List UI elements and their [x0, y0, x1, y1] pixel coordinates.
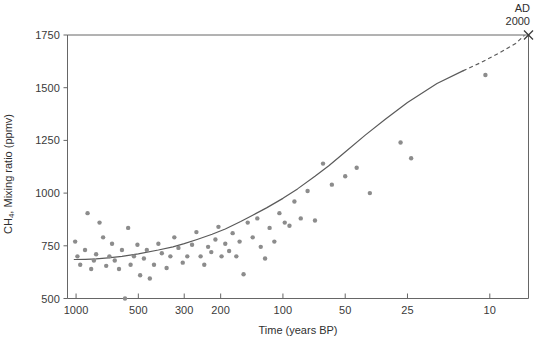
data-point [216, 225, 220, 229]
data-point [78, 263, 82, 267]
data-point [126, 226, 130, 230]
data-point [104, 264, 108, 268]
data-point [483, 73, 487, 77]
x-tick-label: 50 [339, 304, 351, 316]
data-point [73, 239, 77, 243]
y-tick-label: 1250 [26, 134, 60, 146]
data-point [198, 254, 202, 258]
data-point [251, 235, 255, 239]
data-point [152, 263, 156, 267]
chart-canvas [0, 0, 549, 348]
data-point [110, 241, 114, 245]
y-tick-label: 750 [26, 240, 60, 252]
data-point [219, 254, 223, 258]
y-tick-label: 1500 [26, 82, 60, 94]
x-tick-label: 100 [274, 304, 293, 316]
data-point [168, 254, 172, 258]
data-point [398, 140, 402, 144]
y-axis-title: CH4, Mixing ratio (ppmv) [2, 114, 14, 234]
data-point [299, 216, 303, 220]
data-point [292, 199, 296, 203]
trend-line [74, 35, 524, 259]
data-point [120, 248, 124, 252]
y-axis-title-suffix: , Mixing ratio (ppmv) [2, 114, 14, 214]
data-point [227, 249, 231, 253]
data-point [101, 235, 105, 239]
x-tick-label: 200 [211, 304, 230, 316]
y-axis-title-subscript: 4 [7, 214, 16, 218]
trend-line-dashed [463, 35, 525, 70]
x-tick-label: 500 [129, 304, 148, 316]
data-point [234, 254, 238, 258]
x-tick-label: 1000 [64, 304, 89, 316]
data-point [330, 182, 334, 186]
data-point [117, 267, 121, 271]
data-point [135, 243, 139, 247]
data-point [97, 220, 101, 224]
data-point [267, 226, 271, 230]
ad-2000-annotation: AD 2000 [506, 2, 530, 28]
data-point [283, 220, 287, 224]
data-point [223, 241, 227, 245]
data-point [237, 239, 241, 243]
data-point [85, 211, 89, 215]
y-axis-title-prefix: CH [2, 218, 14, 234]
data-point [259, 245, 263, 249]
data-point [113, 258, 117, 262]
data-point [172, 235, 176, 239]
data-point [230, 231, 234, 235]
data-point [75, 254, 79, 258]
data-point [185, 254, 189, 258]
data-point [313, 218, 317, 222]
data-point [343, 174, 347, 178]
data-points [73, 73, 488, 301]
data-point [246, 220, 250, 224]
x-tick-label: 10 [484, 304, 496, 316]
data-point [202, 263, 206, 267]
chart-figure: 5007501000125015001750 10005003002001005… [0, 0, 549, 348]
data-point [145, 248, 149, 252]
y-tick-label: 500 [26, 293, 60, 305]
data-point [277, 211, 281, 215]
data-point [128, 263, 132, 267]
data-point [92, 258, 96, 262]
data-point [263, 256, 267, 260]
x-tick-label: 300 [175, 304, 194, 316]
data-point [176, 246, 180, 250]
axis-ticks [64, 35, 490, 299]
trend-line-solid [74, 71, 463, 260]
data-point [368, 191, 372, 195]
data-point [138, 273, 142, 277]
data-point [94, 252, 98, 256]
data-point [89, 267, 93, 271]
data-point [190, 243, 194, 247]
data-point [305, 189, 309, 193]
data-point [160, 251, 164, 255]
data-point [206, 245, 210, 249]
data-point [83, 248, 87, 252]
data-point [132, 254, 136, 258]
data-point [409, 156, 413, 160]
ad-annotation-line1: AD [506, 2, 530, 15]
data-point [241, 272, 245, 276]
data-point [156, 241, 160, 245]
ad-annotation-line2: 2000 [506, 15, 530, 28]
data-point [164, 266, 168, 270]
data-point [194, 230, 198, 234]
data-point [123, 296, 127, 300]
data-point [107, 254, 111, 258]
data-point [321, 161, 325, 165]
data-point [181, 260, 185, 264]
data-point [142, 256, 146, 260]
data-point [287, 224, 291, 228]
x-axis-title: Time (years BP) [258, 324, 337, 336]
y-tick-label: 1750 [26, 29, 60, 41]
axes-frame [68, 35, 529, 299]
data-point [255, 216, 259, 220]
data-point [354, 166, 358, 170]
data-point [148, 276, 152, 280]
data-point [209, 250, 213, 254]
data-point [272, 239, 276, 243]
data-point [213, 237, 217, 241]
y-tick-label: 1000 [26, 187, 60, 199]
